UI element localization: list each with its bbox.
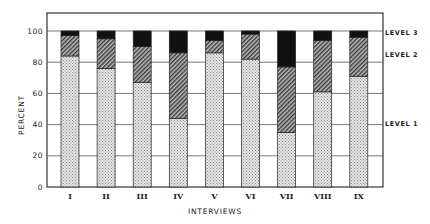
x-tick-label: IV	[173, 191, 184, 201]
bar-segment-level-2	[169, 53, 187, 119]
x-tick-label: III	[137, 191, 148, 201]
y-axis-ticks: 020406080100	[27, 27, 43, 192]
y-axis-title: PERCENT	[17, 95, 26, 135]
legend: LEVEL 1LEVEL 2LEVEL 3	[385, 29, 418, 128]
x-tick-label: VIII	[313, 191, 332, 201]
bar-IV	[169, 31, 187, 187]
x-axis-ticks: IIIIIIIVVVIVIIVIIIIX	[68, 191, 364, 201]
bar-segment-level-1	[97, 68, 115, 187]
x-tick-label: I	[68, 191, 72, 201]
y-tick-label: 0	[38, 183, 43, 192]
legend-level-2: LEVEL 2	[385, 51, 418, 59]
bar-segment-level-2	[97, 39, 115, 69]
bar-segment-level-1	[350, 76, 368, 187]
bar-segment-level-2	[278, 67, 296, 133]
bar-segment-level-3	[350, 31, 368, 37]
bar-segment-level-2	[205, 40, 223, 52]
bar-segment-level-1	[205, 53, 223, 187]
bar-segment-level-2	[242, 34, 260, 59]
bar-segment-level-3	[314, 31, 332, 40]
y-tick-label: 20	[32, 151, 43, 160]
bar-segment-level-3	[205, 31, 223, 40]
x-tick-label: II	[102, 191, 110, 201]
bar-segment-level-1	[278, 132, 296, 187]
x-tick-label: V	[210, 191, 218, 201]
bar-segment-level-3	[169, 31, 187, 53]
x-tick-label: IX	[354, 191, 365, 201]
legend-level-1: LEVEL 1	[385, 120, 418, 128]
y-tick-label: 60	[32, 89, 43, 98]
bar-segment-level-1	[169, 118, 187, 187]
bar-IX	[350, 31, 368, 187]
y-tick-label: 40	[32, 120, 43, 129]
bar-V	[205, 31, 223, 187]
bar-VIII	[314, 31, 332, 187]
bar-segment-level-1	[314, 92, 332, 187]
bar-I	[61, 31, 79, 187]
bar-segment-level-2	[61, 36, 79, 56]
x-axis-title: INTERVIEWS	[188, 207, 242, 216]
bars	[61, 31, 368, 187]
bar-segment-level-3	[133, 31, 151, 47]
bar-segment-level-1	[133, 82, 151, 187]
bar-segment-level-3	[242, 31, 260, 34]
bar-segment-level-1	[61, 56, 79, 187]
bar-segment-level-3	[278, 31, 296, 67]
bar-segment-level-1	[242, 59, 260, 187]
y-tick-label: 80	[32, 58, 43, 67]
legend-level-3: LEVEL 3	[385, 29, 418, 37]
bar-segment-level-2	[133, 47, 151, 83]
bar-VII	[278, 31, 296, 187]
bar-segment-level-3	[97, 31, 115, 39]
y-tick-label: 100	[27, 27, 43, 36]
bar-segment-level-2	[350, 37, 368, 76]
bar-III	[133, 31, 151, 187]
x-tick-label: VI	[245, 191, 256, 201]
stacked-bar-chart: 020406080100 IIIIIIIVVVIVIIVIIIIX PERCEN…	[0, 0, 430, 224]
bar-VI	[242, 31, 260, 187]
bar-segment-level-3	[61, 31, 79, 36]
bar-II	[97, 31, 115, 187]
x-tick-label: VII	[279, 191, 294, 201]
bar-segment-level-2	[314, 40, 332, 91]
